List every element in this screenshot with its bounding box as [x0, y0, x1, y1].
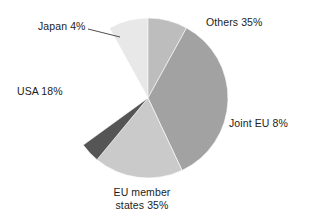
- slice-label-others: Others 35%: [206, 16, 262, 29]
- slice-label-usa: USA 18%: [17, 85, 63, 98]
- slice-label-eu-member-states: EU member states 35%: [99, 186, 185, 211]
- pie-slices-group: [83, 18, 228, 178]
- slice-label-eu-member-states-line2: states 35%: [116, 199, 169, 211]
- slice-label-japan: Japan 4%: [38, 20, 86, 33]
- slice-label-joint-eu: Joint EU 8%: [229, 117, 288, 130]
- slice-label-eu-member-states-line1: EU member: [114, 186, 171, 198]
- pie-chart-figure: Others 35% Joint EU 8% EU member states …: [0, 0, 313, 223]
